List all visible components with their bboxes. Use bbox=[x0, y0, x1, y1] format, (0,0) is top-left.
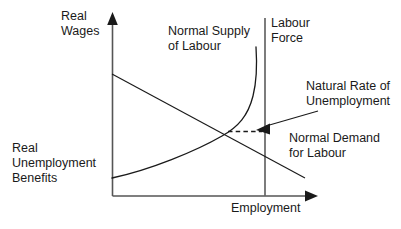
natural-rate-arrowhead bbox=[256, 124, 270, 135]
x-axis-arrowhead bbox=[305, 191, 318, 202]
normal-demand-for-labour-label: Normal Demand for Labour bbox=[289, 131, 380, 161]
natural-rate-of-unemployment-label: Natural Rate of Unemployment bbox=[306, 79, 390, 109]
natural-rate-leader-line bbox=[266, 111, 318, 126]
x-axis-label-employment: Employment bbox=[231, 201, 300, 216]
real-unemployment-benefits-label: Real Unemployment Benefits bbox=[12, 141, 96, 186]
y-axis-arrowhead bbox=[107, 12, 118, 25]
normal-supply-of-labour-label: Normal Supply of Labour bbox=[168, 24, 250, 54]
labour-force-label: Labour Force bbox=[271, 16, 310, 46]
labour-market-diagram: Real Wages Normal Supply of Labour Labou… bbox=[0, 0, 401, 229]
y-axis-label-real-wages: Real Wages bbox=[61, 9, 99, 39]
normal-demand-for-labour-line bbox=[112, 74, 305, 178]
